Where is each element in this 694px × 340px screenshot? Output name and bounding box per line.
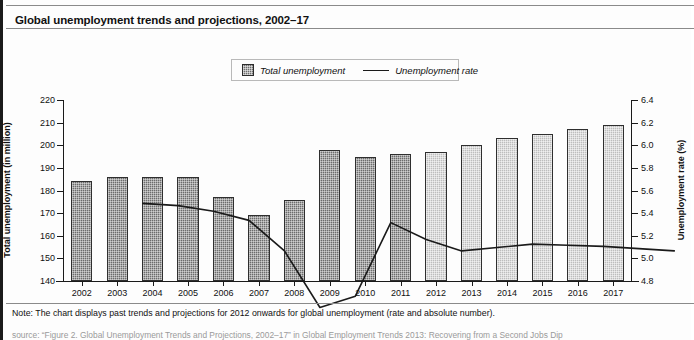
y-axis-right-tick	[631, 213, 638, 214]
x-axis-line	[56, 281, 639, 282]
y-axis-left-tick-label: 220	[40, 95, 55, 105]
x-axis-tick	[401, 281, 402, 286]
y-axis-left-tick-label: 150	[40, 253, 55, 263]
bar-2010	[355, 157, 376, 281]
x-axis-tick-label-2016: 2016	[568, 288, 588, 298]
y-axis-left-tick	[57, 191, 64, 192]
chart-note: Note: The chart displays past trends and…	[12, 308, 495, 318]
x-axis-tick-label-2013: 2013	[462, 288, 482, 298]
footer-divider	[6, 303, 694, 304]
x-axis-tick	[613, 281, 614, 286]
y-axis-right-tick-label: 5.0	[641, 253, 654, 263]
y-axis-left-tick-label: 210	[40, 118, 55, 128]
x-axis-tick-label-2009: 2009	[320, 288, 340, 298]
y-axis-left-tick	[57, 168, 64, 169]
y-axis-left-tick-label: 200	[40, 140, 55, 150]
legend-entry-unemployment-rate: Unemployment rate	[345, 65, 478, 76]
legend-label-total-unemployment: Total unemployment	[260, 65, 345, 76]
chart-legend: Total unemployment Unemployment rate	[231, 59, 459, 81]
x-axis-tick	[542, 281, 543, 286]
bar-2008	[284, 200, 305, 281]
x-axis-tick	[330, 281, 331, 286]
legend-label-unemployment-rate: Unemployment rate	[395, 65, 478, 76]
y-axis-right-tick	[631, 236, 638, 237]
y-axis-right-tick-label: 5.8	[641, 163, 654, 173]
title-bar: Global unemployment trends and projectio…	[6, 5, 694, 29]
y-axis-left-title: Total unemployment (in million)	[2, 122, 12, 257]
y-axis-left-tick-label: 180	[40, 186, 55, 196]
bar-2004	[142, 177, 163, 281]
y-axis-left-tick	[57, 100, 64, 101]
y-axis-right-tick	[631, 281, 638, 282]
y-axis-right-tick	[631, 145, 638, 146]
x-axis-tick	[117, 281, 118, 286]
y-axis-left-tick	[57, 281, 64, 282]
y-axis-right-tick-label: 5.6	[641, 186, 654, 196]
bar-2011	[390, 154, 411, 281]
x-axis-tick-label-2015: 2015	[532, 288, 552, 298]
y-axis-left-tick	[57, 236, 64, 237]
y-axis-right-tick	[631, 123, 638, 124]
y-axis-left-tick-label: 160	[40, 231, 55, 241]
x-axis-tick	[578, 281, 579, 286]
x-axis-tick-label-2002: 2002	[72, 288, 92, 298]
y-axis-left-tick-label: 190	[40, 163, 55, 173]
y-axis-right-tick-label: 6.4	[641, 95, 654, 105]
page-title: Global unemployment trends and projectio…	[15, 14, 309, 26]
y-axis-right-title: Unemployment rate (%)	[676, 140, 686, 241]
x-axis-tick	[82, 281, 83, 286]
x-axis-tick-label-2014: 2014	[497, 288, 517, 298]
bar-2009	[319, 150, 340, 281]
bar-2002	[71, 181, 92, 281]
bar-2014	[496, 138, 517, 281]
y-axis-right-tick-label: 6.2	[641, 118, 654, 128]
bar-2017	[603, 125, 624, 281]
y-axis-right-tick	[631, 168, 638, 169]
bar-2015	[532, 134, 553, 281]
y-axis-right-tick-label: 5.2	[641, 231, 654, 241]
chart-source: source: “Figure 2. Global Unemployment T…	[12, 330, 563, 340]
x-axis-tick	[188, 281, 189, 286]
y-axis-left-tick-label: 140	[40, 276, 55, 286]
x-axis-tick	[472, 281, 473, 286]
x-axis-tick-label-2004: 2004	[143, 288, 163, 298]
x-axis-tick-label-2008: 2008	[284, 288, 304, 298]
x-axis-tick	[153, 281, 154, 286]
x-axis-tick-label-2003: 2003	[107, 288, 127, 298]
x-axis-tick-label-2006: 2006	[213, 288, 233, 298]
x-axis-tick	[294, 281, 295, 286]
x-axis-tick	[436, 281, 437, 286]
y-axis-left-tick	[57, 123, 64, 124]
y-axis-right-tick-label: 6.0	[641, 140, 654, 150]
y-axis-right-tick	[631, 258, 638, 259]
x-axis-tick	[223, 281, 224, 286]
y-axis-right-tick	[631, 100, 638, 101]
x-axis-tick-label-2010: 2010	[355, 288, 375, 298]
y-axis-left-tick	[57, 145, 64, 146]
legend-entry-total-unemployment: Total unemployment	[232, 64, 345, 76]
bar-2016	[567, 129, 588, 281]
x-axis-tick-label-2012: 2012	[426, 288, 446, 298]
bar-2013	[461, 145, 482, 281]
bar-2006	[213, 197, 234, 281]
bar-2012	[425, 152, 446, 281]
y-axis-right-tick-label: 5.4	[641, 208, 654, 218]
x-axis-tick-label-2005: 2005	[178, 288, 198, 298]
x-axis-tick	[259, 281, 260, 286]
y-axis-right-tick-label: 4.8	[641, 276, 654, 286]
bar-2003	[107, 177, 128, 281]
x-axis-tick-label-2011: 2011	[391, 288, 410, 298]
plot-area: 140150160170180190200210220 4.85.05.25.4…	[64, 100, 631, 281]
legend-bar-swatch-icon	[242, 64, 254, 76]
x-axis-tick-label-2017: 2017	[603, 288, 623, 298]
y-axis-left-tick-label: 170	[40, 208, 55, 218]
bar-2005	[177, 177, 198, 281]
legend-line-swatch-icon	[363, 70, 389, 71]
x-axis-tick	[365, 281, 366, 286]
x-axis-tick-label-2007: 2007	[249, 288, 269, 298]
y-axis-left-tick	[57, 213, 64, 214]
bar-2007	[248, 215, 269, 281]
x-axis-tick	[507, 281, 508, 286]
y-axis-left-tick	[57, 258, 64, 259]
